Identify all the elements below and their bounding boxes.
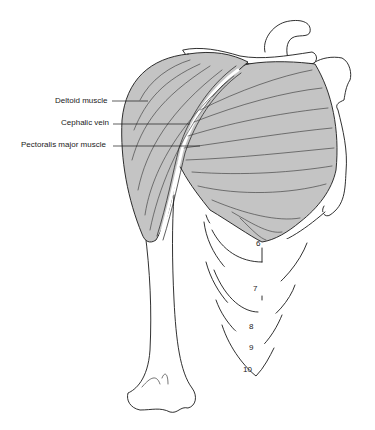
rib-number-6: 6 — [256, 239, 260, 248]
rib-number-7: 7 — [253, 284, 257, 293]
rib-number-10: 10 — [243, 365, 252, 374]
label-deltoid-muscle: Deltoid muscle — [55, 96, 107, 106]
label-cephalic-vein: Cephalic vein — [61, 118, 109, 128]
label-pectoralis-major-muscle: Pectoralis major muscle — [21, 140, 106, 150]
rib-number-8: 8 — [249, 322, 253, 331]
rib-number-9: 9 — [249, 343, 253, 352]
leader-lines — [0, 0, 375, 430]
